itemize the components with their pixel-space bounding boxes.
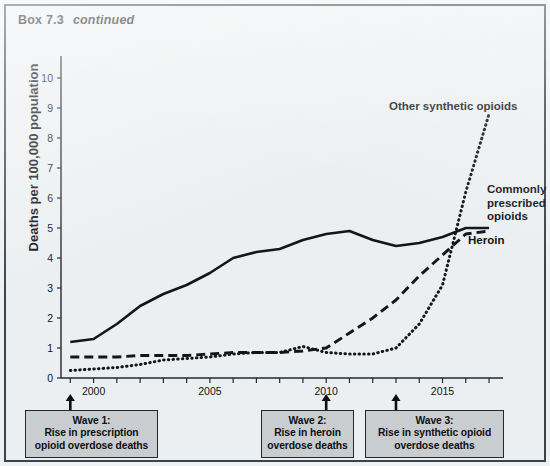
- y-tick-label: 4: [47, 252, 53, 264]
- y-tick-label: 2: [47, 312, 53, 324]
- series-line-commonly-prescribed-opioids: [70, 228, 489, 342]
- page-root: Box 7.3continued Deaths per 100,000 popu…: [0, 0, 550, 466]
- series-label-other-synthetic-opioids: Other synthetic opioids: [389, 100, 517, 114]
- y-tick-label: 0: [47, 372, 53, 384]
- chart-svg: 0123456789102000200520102015: [0, 0, 550, 466]
- wave-3-arrow: [391, 394, 400, 410]
- x-tick-label: 2000: [82, 385, 106, 397]
- y-tick-label: 7: [47, 162, 53, 174]
- wave-1-callout: Wave 1: Rise in prescription opioid over…: [25, 410, 158, 458]
- series-label-heroin: Heroin: [468, 234, 504, 248]
- wave-3-callout: Wave 3: Rise in synthetic opioid overdos…: [365, 410, 504, 458]
- y-tick-label: 8: [47, 132, 53, 144]
- y-tick-label: 3: [47, 282, 53, 294]
- series-label-commonly-prescribed-opioids: Commonly prescribed opioids: [487, 183, 546, 224]
- chart-area: Deaths per 100,000 population 0123456789…: [0, 0, 550, 466]
- y-tick-label: 10: [41, 72, 53, 84]
- y-tick-label: 1: [47, 342, 53, 354]
- x-tick-label: 2015: [431, 385, 455, 397]
- y-tick-label: 9: [47, 102, 53, 114]
- y-tick-label: 5: [47, 222, 53, 234]
- wave-1-arrow: [66, 394, 75, 410]
- x-tick-label: 2005: [198, 385, 222, 397]
- y-tick-label: 6: [47, 192, 53, 204]
- wave-2-callout: Wave 2: Rise in heroin overdose deaths: [261, 410, 354, 458]
